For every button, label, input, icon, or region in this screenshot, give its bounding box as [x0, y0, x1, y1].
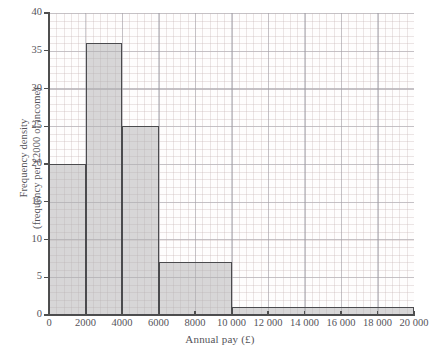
y-tick-mark: [44, 50, 49, 51]
x-tick-mark: [85, 311, 86, 316]
histogram-bar: [232, 307, 415, 315]
y-axis-title: Frequency density (frequency per £2000 o…: [17, 48, 43, 268]
histogram-figure: 0510152025303540 0200040006000800010 000…: [0, 0, 440, 355]
y-axis-title-line2: (frequency per £2000 of income): [30, 48, 43, 268]
x-tick-mark: [231, 311, 232, 316]
x-tick-label: 14 000: [290, 317, 319, 328]
x-tick-label: 10 000: [217, 317, 246, 328]
y-tick-mark: [44, 12, 49, 13]
x-tick-label: 6000: [148, 317, 169, 328]
y-tick-mark: [44, 239, 49, 240]
x-tick-mark: [121, 311, 122, 316]
y-tick-label: 40: [32, 6, 43, 17]
x-tick-mark: [194, 311, 195, 316]
x-tick-label: 18 000: [363, 317, 392, 328]
x-tick-mark: [340, 311, 341, 316]
x-tick-label: 0: [46, 317, 51, 328]
x-tick-label: 12 000: [254, 317, 283, 328]
x-tick-mark: [304, 311, 305, 316]
histogram-bar: [159, 262, 232, 315]
x-tick-mark: [158, 311, 159, 316]
y-tick-label: 0: [37, 308, 42, 319]
y-tick-mark: [44, 277, 49, 278]
y-tick-label: 5: [37, 270, 42, 281]
x-tick-label: 20 000: [400, 317, 429, 328]
x-tick-label: 2000: [75, 317, 96, 328]
histogram-bar: [122, 126, 159, 315]
x-tick-mark: [413, 311, 414, 316]
y-tick-mark: [44, 201, 49, 202]
x-tick-label: 4000: [112, 317, 133, 328]
x-tick-label: 8000: [185, 317, 206, 328]
y-tick-mark: [44, 88, 49, 89]
x-tick-mark: [48, 311, 49, 316]
histogram-bar: [86, 43, 123, 315]
y-tick-mark: [44, 163, 49, 164]
x-axis-title: Annual pay (£): [0, 333, 440, 345]
x-tick-mark: [377, 311, 378, 316]
x-tick-label: 16 000: [327, 317, 356, 328]
histogram-bar: [49, 164, 86, 315]
y-axis-title-line1: Frequency density: [18, 119, 29, 198]
y-tick-mark: [44, 126, 49, 127]
x-tick-mark: [267, 311, 268, 316]
